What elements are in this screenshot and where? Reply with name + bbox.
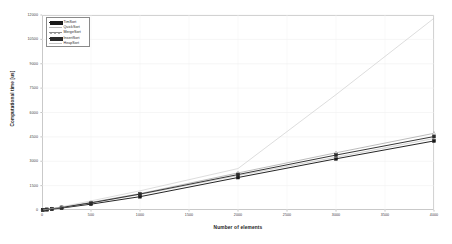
gridlines	[42, 15, 434, 210]
chart-screenshot: Computational time [us] Number of elemen…	[0, 0, 452, 244]
x-tick-label: 500	[76, 213, 106, 217]
legend-label: HeapSort	[64, 41, 80, 46]
x-tick-label: 4000	[419, 213, 449, 217]
y-tick-label: 9000	[4, 62, 38, 66]
y-tick-label: 3000	[4, 159, 38, 163]
legend-marker-icon	[54, 32, 56, 34]
x-tick-label: 2000	[223, 213, 253, 217]
y-tick-label: 12000	[4, 13, 38, 17]
y-tick-label: 0	[4, 208, 38, 212]
x-tick-label: 3500	[370, 213, 400, 217]
legend-swatch-heapsort	[49, 41, 62, 46]
y-tick-label: 1500	[4, 184, 38, 188]
legend-swatch-timsort	[49, 20, 62, 25]
legend-marker-icon	[50, 32, 52, 34]
tick-marks	[40, 15, 434, 212]
legend: TimSortQuickSortMergeSortInsertSortHeapS…	[46, 17, 90, 47]
legend-swatch-mergesort	[49, 30, 62, 35]
legend-swatch-quicksort	[49, 25, 62, 30]
y-tick-label: 6000	[4, 111, 38, 115]
legend-item-heapsort[interactable]: HeapSort	[49, 41, 87, 46]
legend-swatch-insertsort	[49, 36, 62, 41]
series-insertsort	[41, 135, 435, 211]
y-tick-label: 10500	[4, 37, 38, 41]
x-tick-label: 1500	[174, 213, 204, 217]
legend-marker-icon	[58, 32, 60, 34]
x-tick-label: 1000	[125, 213, 155, 217]
series-heapsort	[43, 18, 434, 210]
x-tick-label: 0	[27, 213, 57, 217]
x-tick-label: 3000	[321, 213, 351, 217]
y-tick-label: 7500	[4, 86, 38, 90]
x-tick-label: 2500	[272, 213, 302, 217]
y-tick-label: 4500	[4, 135, 38, 139]
x-axis-title: Number of elements	[42, 225, 434, 230]
